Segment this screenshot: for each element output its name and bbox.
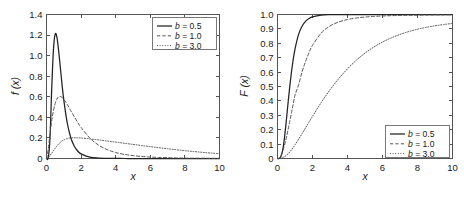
y-tick-label: 0.5 (260, 81, 273, 92)
cdf-plot: 024681000.10.20.30.40.50.60.70.80.91.0 x… (232, 0, 464, 201)
y-tick-label: 0.6 (29, 91, 42, 102)
x-tick-label: 6 (380, 162, 385, 173)
x-tick-label: 6 (148, 162, 153, 173)
legend-item-label: b = 0.5 (175, 21, 202, 31)
y-tick-label: 1.2 (29, 29, 42, 40)
y-tick-label: 0.2 (260, 124, 273, 135)
legend-item-label: b = 1.0 (175, 31, 202, 41)
x-tick-label: 10 (447, 162, 458, 173)
cdf-legend[interactable]: b = 0.5b = 1.0b = 3.0 (386, 126, 450, 159)
y-tick-label: 0.4 (260, 95, 273, 106)
y-tick-label: 0.9 (260, 23, 273, 34)
x-tick-label: 10 (214, 162, 225, 173)
y-tick-label: 1.0 (260, 9, 273, 20)
cdf-panel: 024681000.10.20.30.40.50.60.70.80.91.0 x… (232, 0, 464, 201)
legend-item-label: b = 1.0 (408, 139, 435, 149)
cdf-yaxis-label: F (x) (238, 75, 250, 96)
x-tick-label: 4 (345, 162, 350, 173)
figure-container: 024681000.20.40.60.81.01.21.4 x f (x) b … (0, 0, 464, 201)
y-tick-label: 0.2 (29, 132, 42, 143)
pdf-legend[interactable]: b = 0.5b = 1.0b = 3.0 (153, 18, 217, 51)
x-tick-label: 0 (44, 162, 49, 173)
pdf-yaxis-label: f (x) (9, 77, 21, 95)
pdf-panel: 024681000.20.40.60.81.01.21.4 x f (x) b … (0, 0, 232, 201)
y-tick-label: 1.4 (29, 9, 42, 20)
pdf-xaxis-label: x (129, 170, 136, 182)
y-tick-label: 0.6 (260, 67, 273, 78)
legend-item-label: b = 0.5 (408, 129, 435, 139)
x-tick-label: 2 (78, 162, 83, 173)
y-tick-label: 0.1 (260, 139, 273, 150)
pdf-plot: 024681000.20.40.60.81.01.21.4 x f (x) b … (0, 0, 232, 201)
legend-item-label: b = 3.0 (175, 41, 202, 51)
y-tick-label: 0 (268, 153, 273, 164)
x-tick-label: 0 (275, 162, 280, 173)
curve-solid (47, 33, 220, 159)
x-tick-label: 4 (113, 162, 118, 173)
y-tick-label: 0.8 (29, 71, 42, 82)
y-tick-label: 1.0 (29, 50, 42, 61)
x-tick-label: 8 (182, 162, 187, 173)
y-tick-label: 0.3 (260, 110, 273, 121)
x-tick-label: 8 (415, 162, 420, 173)
legend-item-label: b = 3.0 (408, 149, 435, 159)
y-tick-label: 0 (37, 153, 42, 164)
y-tick-label: 0.7 (260, 52, 273, 63)
curve-dashed (47, 96, 220, 158)
cdf-xaxis-label: x (361, 170, 368, 182)
x-tick-label: 2 (310, 162, 315, 173)
pdf-curves (47, 33, 220, 159)
y-tick-label: 0.8 (260, 38, 273, 49)
y-tick-label: 0.4 (29, 112, 42, 123)
